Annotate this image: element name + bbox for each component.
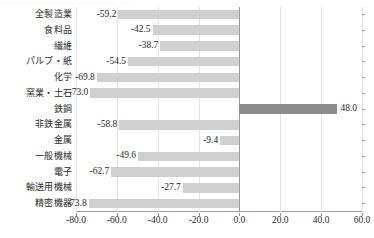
bar	[89, 199, 240, 209]
row-tickmark	[362, 124, 365, 125]
bar-value-label: -62.7	[90, 166, 110, 177]
bar	[239, 104, 337, 114]
bar-value-label: -59.2	[97, 9, 117, 20]
bar-row: -54.5	[76, 54, 362, 69]
bar-value-label: -54.5	[106, 56, 126, 67]
bar	[111, 167, 239, 177]
bar-row: -58.8	[76, 117, 362, 132]
row-tickmark	[362, 172, 365, 173]
bar	[183, 183, 240, 193]
x-tick-label: -20.0	[189, 215, 209, 225]
bar-row: -69.8	[76, 70, 362, 85]
row-tickmark	[362, 30, 365, 31]
bar-value-label: -69.8	[75, 72, 95, 83]
bar-value-label: -73.8	[67, 198, 87, 209]
bar	[138, 152, 239, 162]
bar	[118, 10, 239, 20]
x-tick-label: -60.0	[107, 215, 127, 225]
row-tickmark	[362, 109, 365, 110]
bar-row: -27.7	[76, 180, 362, 195]
bar-value-label: 48.0	[340, 103, 357, 114]
category-label: 電子	[54, 167, 72, 178]
bar-row: -38.7	[76, 39, 362, 54]
bar	[160, 41, 239, 51]
bar	[119, 120, 239, 130]
x-tick-label: -40.0	[148, 215, 168, 225]
category-label: 繊維	[54, 41, 72, 52]
category-label: 全製造業	[35, 9, 72, 20]
bar-value-label: -73.0	[69, 87, 89, 98]
category-axis-labels: 全製造業食料品繊維パルプ・紙化学窯業・土石鉄鋼非鉄金属金属一般機械電子輸送用機械…	[0, 7, 72, 212]
cut-off-text-artifact: — — —— ——— ———————— — —— — — ——	[0, 0, 374, 5]
bar-value-label: -49.6	[116, 150, 136, 161]
bar-row: -42.5	[76, 23, 362, 38]
category-label: 食料品	[44, 25, 72, 36]
x-tick-label: -80.0	[66, 215, 86, 225]
bar-row: -49.6	[76, 149, 362, 164]
x-tick-label: 20.0	[272, 215, 289, 225]
bar-row: 48.0	[76, 102, 362, 117]
category-label: 金属	[54, 135, 72, 146]
bar-row: -73.8	[76, 196, 362, 211]
row-tickmark	[362, 61, 365, 62]
category-label: 鉄鋼	[54, 104, 72, 115]
category-label: 非鉄金属	[35, 119, 72, 130]
bar	[220, 136, 239, 146]
bar	[128, 57, 239, 67]
row-tickmark	[362, 156, 365, 157]
bar-value-label: -38.7	[139, 40, 159, 51]
bar-row: -73.0	[76, 86, 362, 101]
bar-value-label: -27.7	[161, 182, 181, 193]
x-tick-label: 60.0	[354, 215, 371, 225]
bar-row: -62.7	[76, 165, 362, 180]
bar-value-label: -58.8	[98, 119, 118, 130]
row-tickmark	[362, 93, 365, 94]
bar-row: -9.4	[76, 133, 362, 148]
row-tickmark	[362, 187, 365, 188]
bar	[153, 25, 240, 35]
bar-value-label: -9.4	[203, 135, 218, 146]
x-tick-label: 40.0	[313, 215, 330, 225]
row-tickmark	[362, 140, 365, 141]
bar	[97, 73, 240, 83]
row-tickmark	[362, 14, 365, 15]
plot-area: -59.2-42.5-38.7-54.5-69.8-73.048.0-58.8-…	[76, 7, 362, 212]
bar-value-label: -42.5	[131, 24, 151, 35]
category-label: 一般機械	[35, 151, 72, 162]
category-label: 化学	[54, 72, 72, 83]
bar-chart: — — —— ——— ———————— — —— — — —— 全製造業食料品繊…	[0, 0, 374, 238]
category-label: 窯業・土石	[26, 88, 72, 99]
x-tick-label: 0.0	[233, 215, 245, 225]
bar	[90, 88, 239, 98]
bar-row: -59.2	[76, 7, 362, 22]
row-tickmark	[362, 77, 365, 78]
row-tickmark	[362, 203, 365, 204]
row-tickmark	[362, 46, 365, 47]
category-label: 輸送用機械	[26, 182, 72, 193]
category-label: パルプ・紙	[26, 56, 72, 67]
